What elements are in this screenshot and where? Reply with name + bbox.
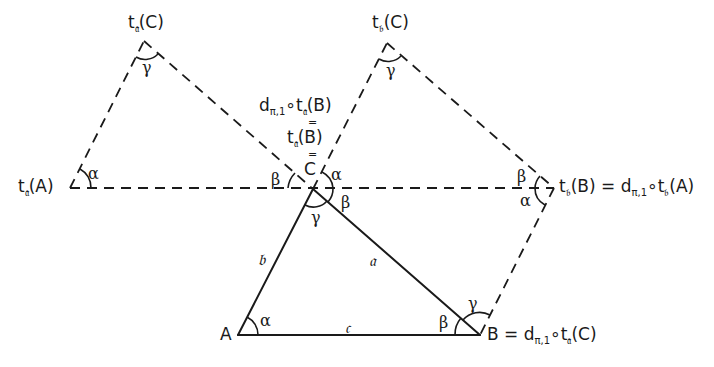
angle-gamma-taC: γ bbox=[142, 60, 152, 76]
angle-beta-C-below: β bbox=[341, 195, 350, 211]
angle-beta-B: β bbox=[439, 315, 448, 331]
arc-beta-B bbox=[455, 318, 461, 335]
vertex-tbC-label: t𝔟(C) bbox=[372, 14, 409, 34]
angle-gamma-C-below: γ bbox=[311, 210, 321, 226]
side-b-line bbox=[238, 189, 313, 335]
angle-alpha-C-right: α bbox=[331, 167, 342, 183]
dashed-tb-right bbox=[387, 43, 554, 188]
arc-alpha-tbB bbox=[535, 188, 545, 205]
arc-beta-C-below bbox=[328, 188, 333, 202]
angle-beta-C-left: β bbox=[271, 172, 280, 188]
angle-gamma-B: γ bbox=[468, 296, 478, 312]
side-a-line bbox=[313, 189, 480, 335]
vertex-B-label: B = dπ,1∘t𝔞(C) bbox=[487, 326, 597, 346]
vertex-taC-label: t𝔞(C) bbox=[128, 14, 164, 34]
angle-gamma-tbC: γ bbox=[386, 63, 396, 79]
arc-gamma-B bbox=[463, 312, 490, 320]
angle-beta-tbB: β bbox=[517, 169, 526, 185]
vertex-taA-label: t𝔞(A) bbox=[18, 178, 54, 198]
arc-beta-tbB bbox=[535, 176, 540, 188]
angle-alpha-A: α bbox=[260, 313, 271, 329]
vertex-tbB-label: t𝔟(B) = dπ,1∘t𝔟(A) bbox=[559, 178, 694, 198]
arc-gamma-C-below bbox=[305, 201, 327, 207]
arc-beta-C-left bbox=[288, 173, 295, 188]
arc-alpha-A bbox=[247, 317, 258, 335]
c-stack-eq2: = bbox=[308, 151, 317, 159]
angle-alpha-taA: α bbox=[88, 166, 99, 182]
vertex-A-label: A bbox=[220, 326, 232, 343]
side-b-label: 𝔟 bbox=[258, 252, 265, 268]
triangle-diagram: A B = dπ,1∘t𝔞(C) t𝔞(A) t𝔞(C) t𝔟(C) t𝔟(B)… bbox=[0, 0, 714, 367]
dashed-tbB-to-B bbox=[480, 188, 554, 335]
dashed-ta-left bbox=[70, 41, 144, 188]
vertex-C-label: C bbox=[304, 161, 316, 178]
side-a-label: 𝔞 bbox=[369, 253, 376, 269]
side-c-label: 𝔠 bbox=[345, 320, 350, 336]
c-stack-eq1: = bbox=[308, 119, 317, 127]
c-stack-line2: t𝔞(B) bbox=[287, 129, 323, 149]
c-stack-line1: dπ,1∘t𝔞(B) bbox=[259, 97, 332, 117]
angle-alpha-tbB: α bbox=[520, 193, 531, 209]
